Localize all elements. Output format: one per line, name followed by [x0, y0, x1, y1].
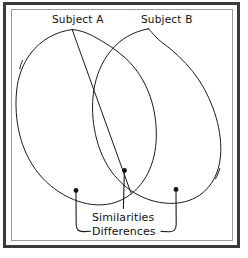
leader-line-similarities	[123, 173, 124, 209]
circle-subject-a	[16, 30, 132, 205]
venn-diagram-page: Subject A Subject B Similarities	[0, 0, 248, 258]
circle-subject-b	[93, 29, 221, 204]
diagram-canvas: Subject A Subject B Similarities	[0, 0, 248, 258]
set-label-subject-a: Subject A	[52, 13, 104, 25]
callout-label-differences: Differences	[92, 225, 156, 238]
leader-line-differences-left	[76, 193, 91, 232]
circle-subject-a-right-arc	[73, 30, 157, 194]
marker-center-dot	[122, 168, 127, 173]
marker-right-dot	[174, 187, 179, 192]
callout-label-similarities: Similarities	[92, 211, 154, 224]
leader-line-differences-right	[161, 192, 176, 232]
marker-left-dot	[74, 188, 79, 193]
set-label-subject-b: Subject B	[141, 13, 193, 25]
